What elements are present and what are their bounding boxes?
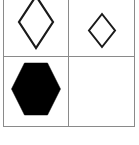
grid-cell-top-left [4,0,69,57]
diamond-outline-small-shape [87,12,117,49]
hexagon-path [12,63,61,115]
diamond-large-path [19,0,53,48]
diamond-outline-small-icon [87,12,117,49]
diamond-small-path [89,14,115,47]
grid-cell-bottom-right [69,57,134,126]
diamond-outline-large-icon [16,0,56,51]
empty-cell [69,57,134,126]
bottom-margin [0,128,139,145]
shape-grid-figure [0,0,139,145]
hexagon-filled-icon [12,63,61,115]
shape-grid [3,0,135,127]
grid-cell-top-right [69,0,134,57]
grid-cell-bottom-left [4,57,69,126]
diamond-outline-large-shape [16,0,56,51]
hexagon-filled-shape [12,63,61,115]
